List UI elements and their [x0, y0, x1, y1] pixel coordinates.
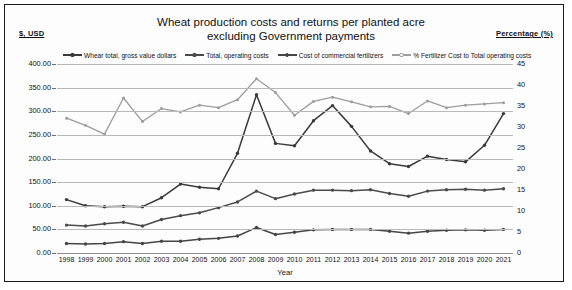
data-point [502, 101, 505, 104]
y-axis-tick-label-left: 0.00 [15, 248, 51, 257]
y-axis-tick-label-right: 40 [517, 80, 541, 89]
data-point [426, 189, 429, 192]
y-axis-tick-label-left: 400.00 [15, 59, 51, 68]
series-3 [65, 77, 505, 135]
data-point [274, 91, 277, 94]
y-axis-tick-mark [52, 182, 56, 183]
y-axis-tick-mark [52, 135, 56, 136]
y-axis-tick-label-right: 0 [517, 248, 541, 257]
chart-title-line2: excluding Government payments [95, 29, 487, 43]
data-point [369, 105, 372, 108]
gridline [57, 64, 513, 65]
data-point [160, 239, 163, 242]
data-point [464, 188, 467, 191]
data-point [331, 188, 334, 191]
data-point [407, 112, 410, 115]
data-point [236, 98, 239, 101]
gridline [57, 182, 513, 183]
data-point [350, 100, 353, 103]
data-point [426, 154, 429, 157]
y-axis-tick-label-right: 20 [517, 164, 541, 173]
x-axis-title: Year [5, 268, 565, 277]
data-point [464, 160, 467, 163]
data-point [407, 165, 410, 168]
y-axis-tick-mark [52, 253, 56, 254]
data-point [483, 144, 486, 147]
data-point [293, 114, 296, 117]
data-point [388, 162, 391, 165]
data-point [274, 233, 277, 236]
data-point [65, 242, 68, 245]
data-point [141, 120, 144, 123]
data-point [445, 106, 448, 109]
x-axis-baseline [57, 253, 513, 254]
data-point [65, 223, 68, 226]
data-point [217, 106, 220, 109]
y-axis-tick-label-right: 25 [517, 143, 541, 152]
y-axis-tick-label-right: 45 [517, 59, 541, 68]
gridline [57, 206, 513, 207]
y-axis-tick-label-right: 30 [517, 122, 541, 131]
y-axis-tick-label-left: 150.00 [15, 177, 51, 186]
data-point [274, 197, 277, 200]
legend-label: Whear total, gross value dollars [84, 52, 176, 59]
data-point [350, 125, 353, 128]
data-point [502, 112, 505, 115]
legend-item-0[interactable]: Whear total, gross value dollars [63, 51, 176, 59]
data-point [122, 240, 125, 243]
legend-label: Total, operating costs [206, 52, 268, 59]
legend-marker-icon [185, 51, 204, 59]
x-axis-tick-label: 2021 [491, 256, 517, 263]
gridline [57, 229, 513, 230]
y-axis-tick-mark [52, 111, 56, 112]
y-axis-tick-label-right: 35 [517, 101, 541, 110]
data-point [236, 234, 239, 237]
data-point [312, 119, 315, 122]
legend-marker-icon [63, 51, 82, 59]
data-point [122, 97, 125, 100]
data-point [407, 231, 410, 234]
y-axis-tick-label-right: 5 [517, 227, 541, 236]
legend-item-3[interactable]: % Fertilizer Cost to Total operating cos… [392, 51, 531, 59]
plot-area [57, 64, 513, 253]
data-point [179, 214, 182, 217]
series-line [67, 189, 504, 226]
data-point [160, 196, 163, 199]
y-axis-tick-label-right: 15 [517, 185, 541, 194]
data-point [255, 189, 258, 192]
data-point [369, 149, 372, 152]
data-point [84, 224, 87, 227]
data-point [331, 96, 334, 99]
data-point [141, 242, 144, 245]
data-point [502, 187, 505, 190]
data-point [293, 231, 296, 234]
legend-marker-icon [392, 51, 411, 59]
legend-marker-icon [278, 51, 297, 59]
data-point [236, 152, 239, 155]
y-axis-tick-mark [52, 229, 56, 230]
data-point [103, 242, 106, 245]
data-point [198, 186, 201, 189]
data-point [388, 192, 391, 195]
legend-item-1[interactable]: Total, operating costs [185, 51, 268, 59]
data-point [255, 77, 258, 80]
y-axis-tick-label-left: 300.00 [15, 106, 51, 115]
y-axis-tick-label-right: 10 [517, 206, 541, 215]
gridline [57, 159, 513, 160]
legend-label: % Fertilizer Cost to Total operating cos… [413, 52, 531, 59]
data-point [350, 189, 353, 192]
right-axis-caption: Percentage (%) [496, 29, 553, 38]
data-point [65, 198, 68, 201]
data-point [198, 104, 201, 107]
data-point [217, 237, 220, 240]
data-point [84, 124, 87, 127]
data-point [160, 107, 163, 110]
data-point [122, 221, 125, 224]
y-axis-tick-mark [52, 206, 56, 207]
data-point [312, 100, 315, 103]
data-point [198, 238, 201, 241]
legend-item-2[interactable]: Cost of commercial fertilizers [278, 51, 384, 59]
data-point [388, 105, 391, 108]
data-point [369, 188, 372, 191]
x-axis-tick-labels: 1998199920002001200220032004200520062007… [57, 256, 513, 267]
